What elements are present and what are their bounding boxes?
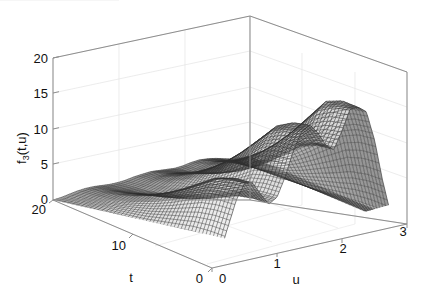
- u-tick-1: 1: [273, 256, 280, 271]
- z-tick-5: 5: [41, 157, 48, 172]
- z-tick-15: 15: [34, 86, 48, 101]
- z-axis-title-tail: (t,u): [14, 132, 29, 155]
- plot-canvas: 20 15 10 5 0 f3(t,u) 20 10 0 t: [0, 0, 423, 304]
- t-tick-0: 0: [196, 271, 203, 286]
- t-tick-20: 20: [32, 202, 46, 217]
- u-tick-2: 2: [339, 241, 346, 256]
- svg-text:f3(t,u): f3(t,u): [14, 132, 31, 164]
- t-axis-title: t: [129, 270, 133, 285]
- z-tick-20: 20: [34, 51, 48, 66]
- t-tick-10: 10: [112, 238, 126, 253]
- u-tick-3: 3: [399, 224, 406, 239]
- u-tick-0: 0: [219, 271, 226, 286]
- z-axis-title: f3(t,u): [14, 132, 31, 164]
- z-tick-10: 10: [34, 122, 48, 137]
- z-axis-tick-labels: 20 15 10 5 0: [34, 51, 48, 207]
- figure-3d-surface-plot: 20 15 10 5 0 f3(t,u) 20 10 0 t: [0, 0, 423, 304]
- u-axis-title: u: [292, 272, 299, 287]
